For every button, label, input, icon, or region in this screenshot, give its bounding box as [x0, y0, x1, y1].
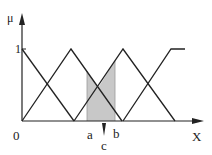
centroid-arrow-icon — [102, 123, 106, 136]
interval-b-label: b — [113, 127, 120, 140]
y-tick-one-label: 1 — [15, 43, 21, 55]
fuzzy-diagram — [0, 0, 212, 155]
mf4-trapezoid — [123, 49, 185, 121]
origin-label: 0 — [13, 129, 20, 142]
centroid-label: c — [101, 139, 107, 152]
x-axis-arrow-icon — [192, 118, 204, 124]
x-axis-label: X — [192, 130, 201, 143]
y-axis-arrow-icon — [19, 13, 25, 25]
interval-a-label: a — [87, 128, 93, 141]
y-axis-label: μ — [7, 12, 13, 24]
